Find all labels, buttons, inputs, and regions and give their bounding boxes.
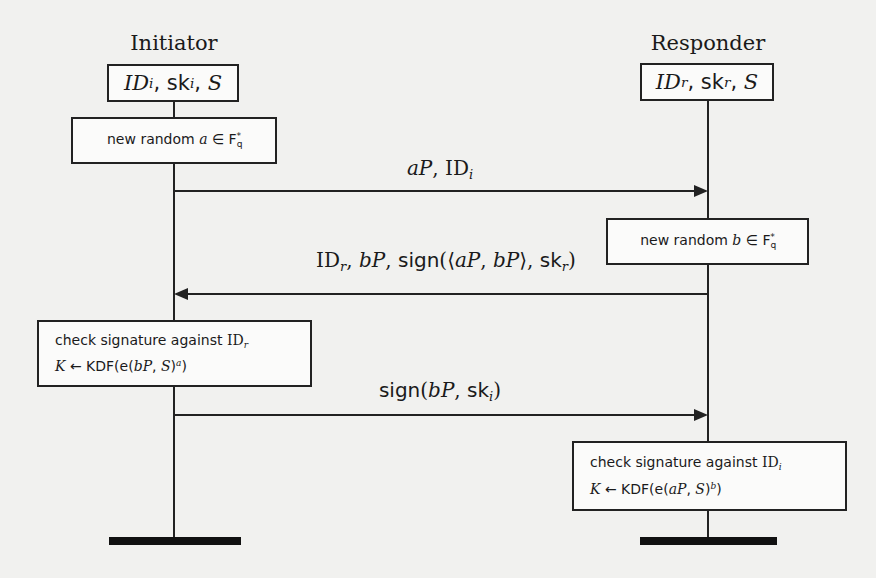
comma: ,	[385, 248, 398, 272]
arrow-head-right-icon	[694, 409, 708, 421]
random-label: new random	[640, 232, 728, 248]
msg-sk: sk	[540, 248, 562, 272]
key-symbol: K	[590, 481, 600, 497]
sk-symbol: sk	[167, 71, 190, 95]
check-id: ID	[762, 454, 779, 470]
msg-ap: aP	[455, 248, 480, 272]
message-1-arrow	[174, 190, 696, 192]
random-var: b	[732, 232, 741, 248]
check-id-subscript: i	[779, 462, 782, 472]
element-of-symbol: ∈	[746, 232, 758, 248]
kdf-arg2: S	[161, 358, 171, 374]
close-paren: )	[716, 481, 721, 497]
check-line: check signature against IDr	[55, 331, 310, 355]
comma: ,	[454, 378, 467, 402]
comma: ,	[152, 358, 161, 374]
comma: ,	[153, 71, 166, 95]
kdf-arg1: bP	[134, 358, 152, 374]
field-superscript: *	[770, 232, 775, 242]
open-paren: (⟨	[439, 248, 455, 272]
close-angle: ⟩,	[519, 248, 540, 272]
random-line: new random b ∈ Fq*	[640, 228, 775, 255]
responder-state-box: IDr, skr, S	[640, 63, 774, 101]
msg-id: ID	[445, 156, 469, 180]
responder-title: Responder	[608, 31, 808, 55]
msg-bp: bP	[359, 248, 385, 272]
check-label: check signature against	[55, 332, 222, 348]
msg-ap: aP	[407, 156, 432, 180]
key-derivation-line: K ← KDF(e(aP, S)b)	[590, 477, 845, 499]
close-paren: )	[181, 358, 186, 374]
kdf-func: KDF(e(	[621, 481, 669, 497]
comma: ,	[194, 71, 207, 95]
check-id: ID	[227, 332, 244, 348]
msg-sign: sign	[379, 378, 420, 402]
s-symbol: S	[208, 71, 222, 95]
element-of-symbol: ∈	[212, 131, 224, 147]
comma: ,	[432, 156, 445, 180]
close-paren: )	[568, 248, 576, 272]
comma: ,	[346, 248, 359, 272]
initiator-state-box: IDi, ski, S	[107, 64, 239, 102]
msg-sk: sk	[467, 378, 489, 402]
open-paren: (	[420, 378, 428, 402]
message-1-label: aP, IDi	[340, 156, 540, 182]
comma: ,	[687, 70, 700, 94]
responder-end-bar	[640, 537, 777, 545]
kdf-arg1: aP	[669, 481, 687, 497]
responder-random-box: new random b ∈ Fq*	[606, 218, 809, 265]
message-3-arrow	[174, 414, 696, 416]
arrow-head-left-icon	[174, 288, 188, 300]
id-symbol: ID	[124, 71, 149, 95]
message-2-arrow	[186, 293, 708, 295]
key-symbol: K	[55, 358, 65, 374]
sk-symbol: sk	[701, 70, 724, 94]
check-id-subscript: r	[244, 339, 248, 349]
message-3-label: sign(bP, ski)	[340, 378, 540, 404]
kdf-func: KDF(e(	[86, 358, 134, 374]
check-label: check signature against	[590, 454, 757, 470]
random-label: new random	[107, 131, 195, 147]
assign-arrow-icon: ←	[70, 358, 82, 374]
initiator-end-bar	[109, 537, 241, 545]
comma: ,	[730, 70, 743, 94]
msg-bp: bP	[428, 378, 454, 402]
message-2-label: IDr, bP, sign(⟨aP, bP⟩, skr)	[286, 248, 606, 274]
random-line: new random a ∈ Fq*	[107, 127, 241, 154]
comma: ,	[480, 248, 493, 272]
check-line: check signature against IDi	[590, 453, 845, 477]
responder-check-box: check signature against IDi K ← KDF(e(aP…	[572, 441, 847, 511]
msg-bp: bP	[493, 248, 519, 272]
close-paren: )	[493, 378, 501, 402]
msg-sign: sign	[398, 248, 439, 272]
s-symbol: S	[744, 70, 758, 94]
msg-id: ID	[316, 248, 340, 272]
kdf-arg2: S	[695, 481, 705, 497]
key-derivation-line: K ← KDF(e(bP, S)a)	[55, 354, 310, 376]
initiator-check-box: check signature against IDr K ← KDF(e(bP…	[37, 320, 312, 387]
field-superscript: *	[236, 131, 241, 141]
msg-id-subscript: i	[469, 167, 473, 182]
random-var: a	[199, 131, 207, 147]
initiator-title: Initiator	[74, 31, 274, 55]
assign-arrow-icon: ←	[605, 481, 617, 497]
initiator-random-box: new random a ∈ Fq*	[71, 117, 277, 164]
arrow-head-right-icon	[694, 185, 708, 197]
id-symbol: ID	[656, 70, 681, 94]
